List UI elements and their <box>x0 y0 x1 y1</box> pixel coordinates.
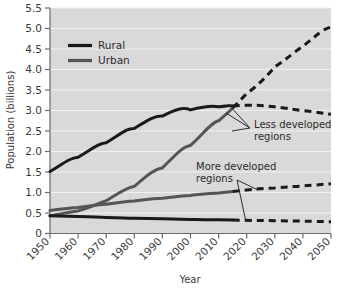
annotation-less-developed-line2: regions <box>254 131 291 142</box>
x-tick-label: 2020 <box>221 235 248 262</box>
x-tick-label: 1960 <box>52 235 79 262</box>
y-tick-label: 1.0 <box>25 186 42 198</box>
x-tick-label: 1970 <box>80 235 107 262</box>
y-tick-label: 4.5 <box>25 43 42 55</box>
annotation-more-developed-line2: regions <box>196 173 233 184</box>
legend-label-urban: Urban <box>98 54 130 66</box>
y-tick-label: 2.5 <box>25 125 42 137</box>
y-tick-labels: 5.5 5.0 4.5 4.0 3.5 3.0 2.5 2.0 1.5 1.0 … <box>25 2 42 240</box>
y-tick-label: 3.0 <box>25 104 42 116</box>
x-tick-label: 1980 <box>108 235 135 262</box>
x-tick-label: 1990 <box>136 235 163 262</box>
y-tick-label: 5.5 <box>25 2 42 14</box>
legend-label-rural: Rural <box>98 39 125 51</box>
x-axis <box>50 234 331 239</box>
y-tick-label: 3.5 <box>25 84 42 96</box>
y-axis <box>45 8 50 234</box>
x-axis-title: Year <box>178 274 201 285</box>
y-tick-label: 2.0 <box>25 145 42 157</box>
x-tick-label: 1950 <box>24 235 51 262</box>
x-tick-label: 2040 <box>277 235 304 262</box>
y-tick-label: 5.0 <box>25 22 42 34</box>
annotation-more-developed-line1: More developed <box>196 161 276 172</box>
x-tick-label: 2000 <box>165 235 192 262</box>
annotation-less-developed-line1: Less developed <box>254 119 331 130</box>
population-line-chart: 5.5 5.0 4.5 4.0 3.5 3.0 2.5 2.0 1.5 1.0 … <box>0 0 343 289</box>
y-axis-title: Population (billions) <box>5 71 16 170</box>
y-tick-label: 4.0 <box>25 63 42 75</box>
x-tick-labels: 1950 1960 1970 1980 1990 2000 2010 2020 … <box>24 235 332 262</box>
x-tick-label: 2030 <box>249 235 276 262</box>
x-tick-label: 2010 <box>193 235 220 262</box>
y-tick-label: 1.5 <box>25 166 42 178</box>
x-tick-label: 2050 <box>305 235 332 262</box>
chart-figure: 5.5 5.0 4.5 4.0 3.5 3.0 2.5 2.0 1.5 1.0 … <box>0 0 343 289</box>
y-tick-label: 0.5 <box>25 207 42 219</box>
